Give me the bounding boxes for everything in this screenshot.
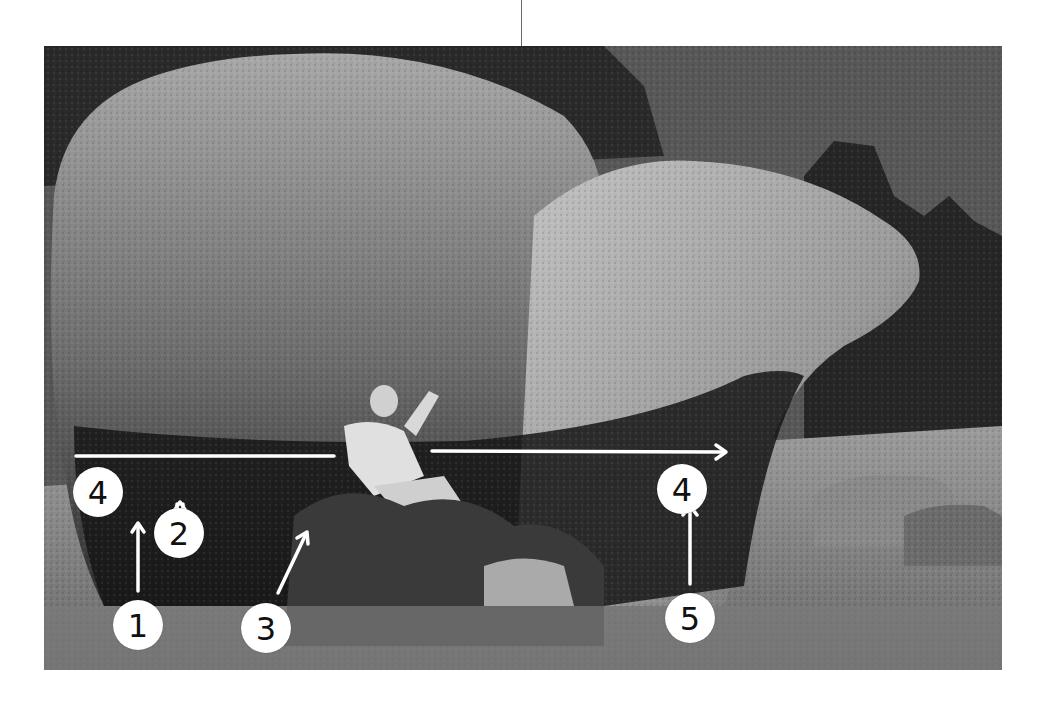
route-arrows-overlay [44,46,1002,670]
route-marker-4-left: 4 [73,467,123,517]
marker-label: 2 [169,518,189,550]
route-3-arrow [278,534,306,593]
marker-label: 1 [128,610,148,642]
route-marker-1: 1 [113,600,163,650]
marker-label: 3 [256,613,276,645]
route-marker-3: 3 [241,603,291,653]
route-4-traverse-arrow [76,451,724,456]
marker-label: 4 [672,474,692,506]
marker-label: 4 [88,477,108,509]
route-marker-5: 5 [665,593,715,643]
top-divider-line [521,0,522,46]
route-marker-2: 2 [154,508,204,558]
marker-label: 5 [680,603,700,635]
route-marker-4-right: 4 [657,464,707,514]
boulder-photo: 4 1 2 3 4 5 [44,46,1002,670]
